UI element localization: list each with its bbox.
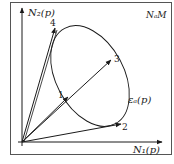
vector-3 [22,60,111,142]
x-axis-label: N₁(p) [132,144,160,155]
diagram-figure: 4 3 1 2 N₂(p) N₁(p) εₐ(p) NₐM [0,0,174,164]
point-label-4: 4 [50,18,56,28]
vector-2 [22,124,121,142]
point-label-2: 2 [122,122,128,132]
frame-label: NₐM [145,10,167,20]
ellipse-curve [35,12,146,139]
y-axis-label: N₂(p) [27,7,55,18]
vector-4 [22,28,55,142]
point-label-1: 1 [58,90,64,100]
curve-label: εₐ(p) [128,94,151,105]
point-label-3: 3 [114,54,120,64]
